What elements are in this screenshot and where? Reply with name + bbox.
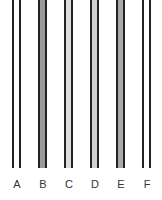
strip-label-d: D — [87, 178, 103, 190]
strip-f — [142, 0, 151, 168]
strip-d — [90, 0, 99, 168]
strip-b — [38, 0, 47, 168]
strip-label-e: E — [113, 178, 129, 190]
strip-label-b: B — [35, 178, 51, 190]
strip-a — [12, 0, 21, 168]
strip-c — [64, 0, 73, 168]
strip-label-a: A — [9, 178, 25, 190]
strip-e — [116, 0, 125, 168]
strip-label-f: F — [139, 178, 155, 190]
strip-label-c: C — [61, 178, 77, 190]
